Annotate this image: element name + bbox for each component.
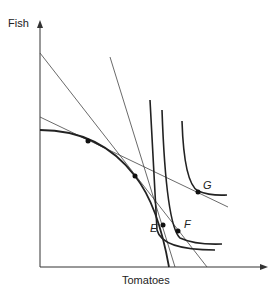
point-g-dot xyxy=(196,190,201,195)
y-axis-arrow-icon xyxy=(37,20,43,28)
point-e-label: E xyxy=(150,222,157,234)
price-line-medium xyxy=(40,53,207,267)
ppf-curve xyxy=(40,130,169,267)
point-e-dot xyxy=(161,223,166,228)
y-axis-label: Fish xyxy=(8,17,29,29)
point-f-label: F xyxy=(184,218,191,230)
x-axis-arrow-icon xyxy=(260,264,268,270)
ppf-diagram xyxy=(0,0,277,294)
point-dot xyxy=(86,139,91,144)
point-f-dot xyxy=(176,229,181,234)
point-dot xyxy=(133,174,138,179)
indifference-curve-2 xyxy=(162,110,222,244)
x-axis-label: Tomatoes xyxy=(122,274,170,286)
point-g-label: G xyxy=(203,179,212,191)
